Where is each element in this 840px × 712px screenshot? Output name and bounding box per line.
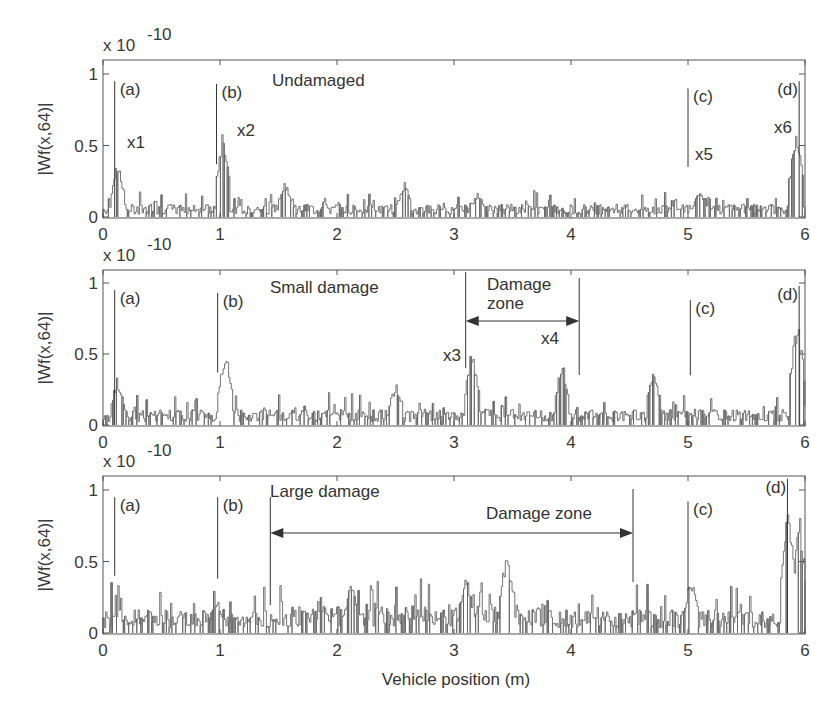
marker-label: (c)	[695, 299, 715, 318]
y-scale-label: x 10	[103, 36, 135, 55]
chart-panel-1: 012345600.51x 10-10|Wf(x,64)|(a)(b)(c)(d…	[35, 25, 810, 244]
x-tick-label: 2	[332, 433, 341, 452]
marker-label: (b)	[223, 496, 244, 515]
panel-title: Large damage	[270, 482, 380, 501]
y-tick-label: 1	[89, 65, 98, 84]
x-tick-label: 0	[98, 225, 107, 244]
y-scale-exponent: -10	[147, 441, 172, 460]
x-tick-label: 5	[683, 433, 692, 452]
y-scale-exponent: -10	[147, 235, 172, 254]
x-tick-label: 0	[98, 433, 107, 452]
marker-label: (c)	[693, 87, 713, 106]
marker-label: (d)	[777, 285, 798, 304]
x-tick-label: 2	[332, 641, 341, 660]
marker-label: (b)	[221, 83, 242, 102]
marker-label: (a)	[120, 80, 141, 99]
marker-label: (d)	[765, 478, 786, 497]
x-tick-label: 1	[215, 225, 224, 244]
x-tick-label: 3	[449, 225, 458, 244]
panel-title: Small damage	[270, 278, 379, 297]
y-tick-label: 0.5	[74, 137, 98, 156]
x-tick-label: 4	[566, 641, 575, 660]
x-tick-label: 4	[566, 225, 575, 244]
marker-label: (b)	[223, 292, 244, 311]
x-tick-label: 5	[683, 225, 692, 244]
x-tick-label: 6	[800, 641, 809, 660]
marker-label: (c)	[693, 500, 713, 519]
y-tick-label: 0	[89, 208, 98, 227]
y-tick-label: 1	[89, 274, 98, 293]
signal-trace	[103, 330, 805, 426]
x-tick-label: 5	[683, 641, 692, 660]
y-axis-label: |Wf(x,64)|	[35, 102, 54, 175]
x-tick-label: 6	[800, 433, 809, 452]
x-axis-label: Vehicle position (m)	[382, 670, 530, 689]
annotation-x4: x4	[541, 329, 559, 348]
y-scale-label: x 10	[103, 452, 135, 471]
y-tick-label: 0	[89, 624, 98, 643]
x-tick-label: 1	[215, 641, 224, 660]
damage-zone-label: Damage	[487, 275, 551, 294]
y-axis-label: |Wf(x,64)|	[35, 311, 54, 384]
chart-panel-2: 012345600.51x 10-10|Wf(x,64)|(a)(b)(c)(d…	[35, 235, 810, 452]
marker-label: (a)	[120, 496, 141, 515]
y-axis-label: |Wf(x,64)|	[35, 518, 54, 591]
x-tick-label: 6	[800, 225, 809, 244]
x-tick-label: 1	[215, 433, 224, 452]
damage-zone-label: Damage zone	[486, 504, 592, 523]
marker-label: (a)	[120, 289, 141, 308]
x-tick-label: 3	[449, 433, 458, 452]
x-tick-label: 3	[449, 641, 458, 660]
x-tick-label: 2	[332, 225, 341, 244]
annotation-x5: x5	[695, 145, 713, 164]
y-scale-exponent: -10	[147, 25, 172, 44]
annotation-x1: x1	[127, 133, 145, 152]
y-tick-label: 0	[89, 416, 98, 435]
x-tick-label: 0	[98, 641, 107, 660]
damage-zone-label: zone	[487, 294, 524, 313]
y-scale-label: x 10	[103, 246, 135, 265]
annotation-x2: x2	[237, 121, 255, 140]
annotation-x6: x6	[774, 118, 792, 137]
x-tick-label: 4	[566, 433, 575, 452]
figure: 012345600.51x 10-10|Wf(x,64)|(a)(b)(c)(d…	[0, 0, 840, 712]
panel-title: Undamaged	[272, 71, 365, 90]
y-tick-label: 0.5	[74, 345, 98, 364]
annotation-x3: x3	[443, 346, 461, 365]
y-tick-label: 0.5	[74, 553, 98, 572]
marker-label: (d)	[777, 80, 798, 99]
y-tick-label: 1	[89, 481, 98, 500]
chart-panel-3: 012345600.51x 10-10|Wf(x,64)|(a)(b)(c)(d…	[35, 441, 810, 689]
